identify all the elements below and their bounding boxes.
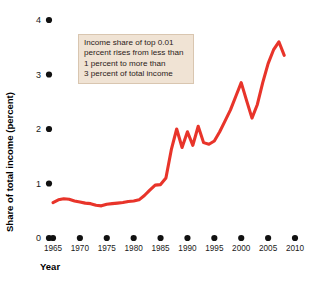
y-tick-label: 0 (36, 233, 41, 243)
x-tick-dot (265, 235, 271, 241)
chart-figure: 01234 1965197019751980198519901995200020… (0, 0, 313, 286)
x-tick-label: 1980 (125, 244, 144, 253)
x-tick-label: 2005 (259, 244, 278, 253)
x-tick-dot (50, 235, 56, 241)
x-tick-dot (77, 235, 83, 241)
x-tick-label: 2010 (286, 244, 305, 253)
x-axis-title: Year (40, 261, 60, 272)
y-tick-label: 1 (36, 179, 41, 189)
annotation-line-2: percent rises from less than (84, 48, 188, 58)
x-tick-label: 1965 (44, 244, 63, 253)
x-tick-label: 2000 (232, 244, 251, 253)
y-tick-label: 3 (36, 70, 41, 80)
x-tick-label: 1985 (151, 244, 170, 253)
y-tick-dot (46, 17, 52, 23)
y-axis-title: Share of total income (percent) (4, 92, 15, 232)
x-tick-label: 1995 (205, 244, 224, 253)
annotation-line-1: Income share of top 0.01 (84, 38, 188, 48)
x-tick-dot (292, 235, 298, 241)
x-axis-tick-dots (50, 235, 298, 241)
y-axis-tick-labels: 01234 (36, 15, 41, 243)
y-tick-dot (46, 180, 52, 186)
x-axis-tick-labels: 1965197019751980198519901995200020052010 (44, 244, 305, 253)
x-tick-label: 1975 (98, 244, 117, 253)
x-tick-label: 1990 (178, 244, 197, 253)
x-tick-dot (157, 235, 163, 241)
y-tick-label: 2 (36, 124, 41, 134)
y-tick-dot (46, 126, 52, 132)
x-tick-label: 1970 (71, 244, 90, 253)
y-tick-label: 4 (36, 15, 41, 25)
x-tick-dot (211, 235, 217, 241)
x-tick-dot (131, 235, 137, 241)
y-tick-dot (46, 71, 52, 77)
annotation-line-3: 1 percent to more than (84, 59, 188, 69)
annotation-line-4: 3 percent of total income (84, 69, 188, 79)
x-tick-dot (184, 235, 190, 241)
x-tick-dot (104, 235, 110, 241)
x-tick-dot (238, 235, 244, 241)
y-axis-tick-dots (46, 17, 52, 241)
annotation-callout: Income share of top 0.01 percent rises f… (78, 34, 194, 84)
